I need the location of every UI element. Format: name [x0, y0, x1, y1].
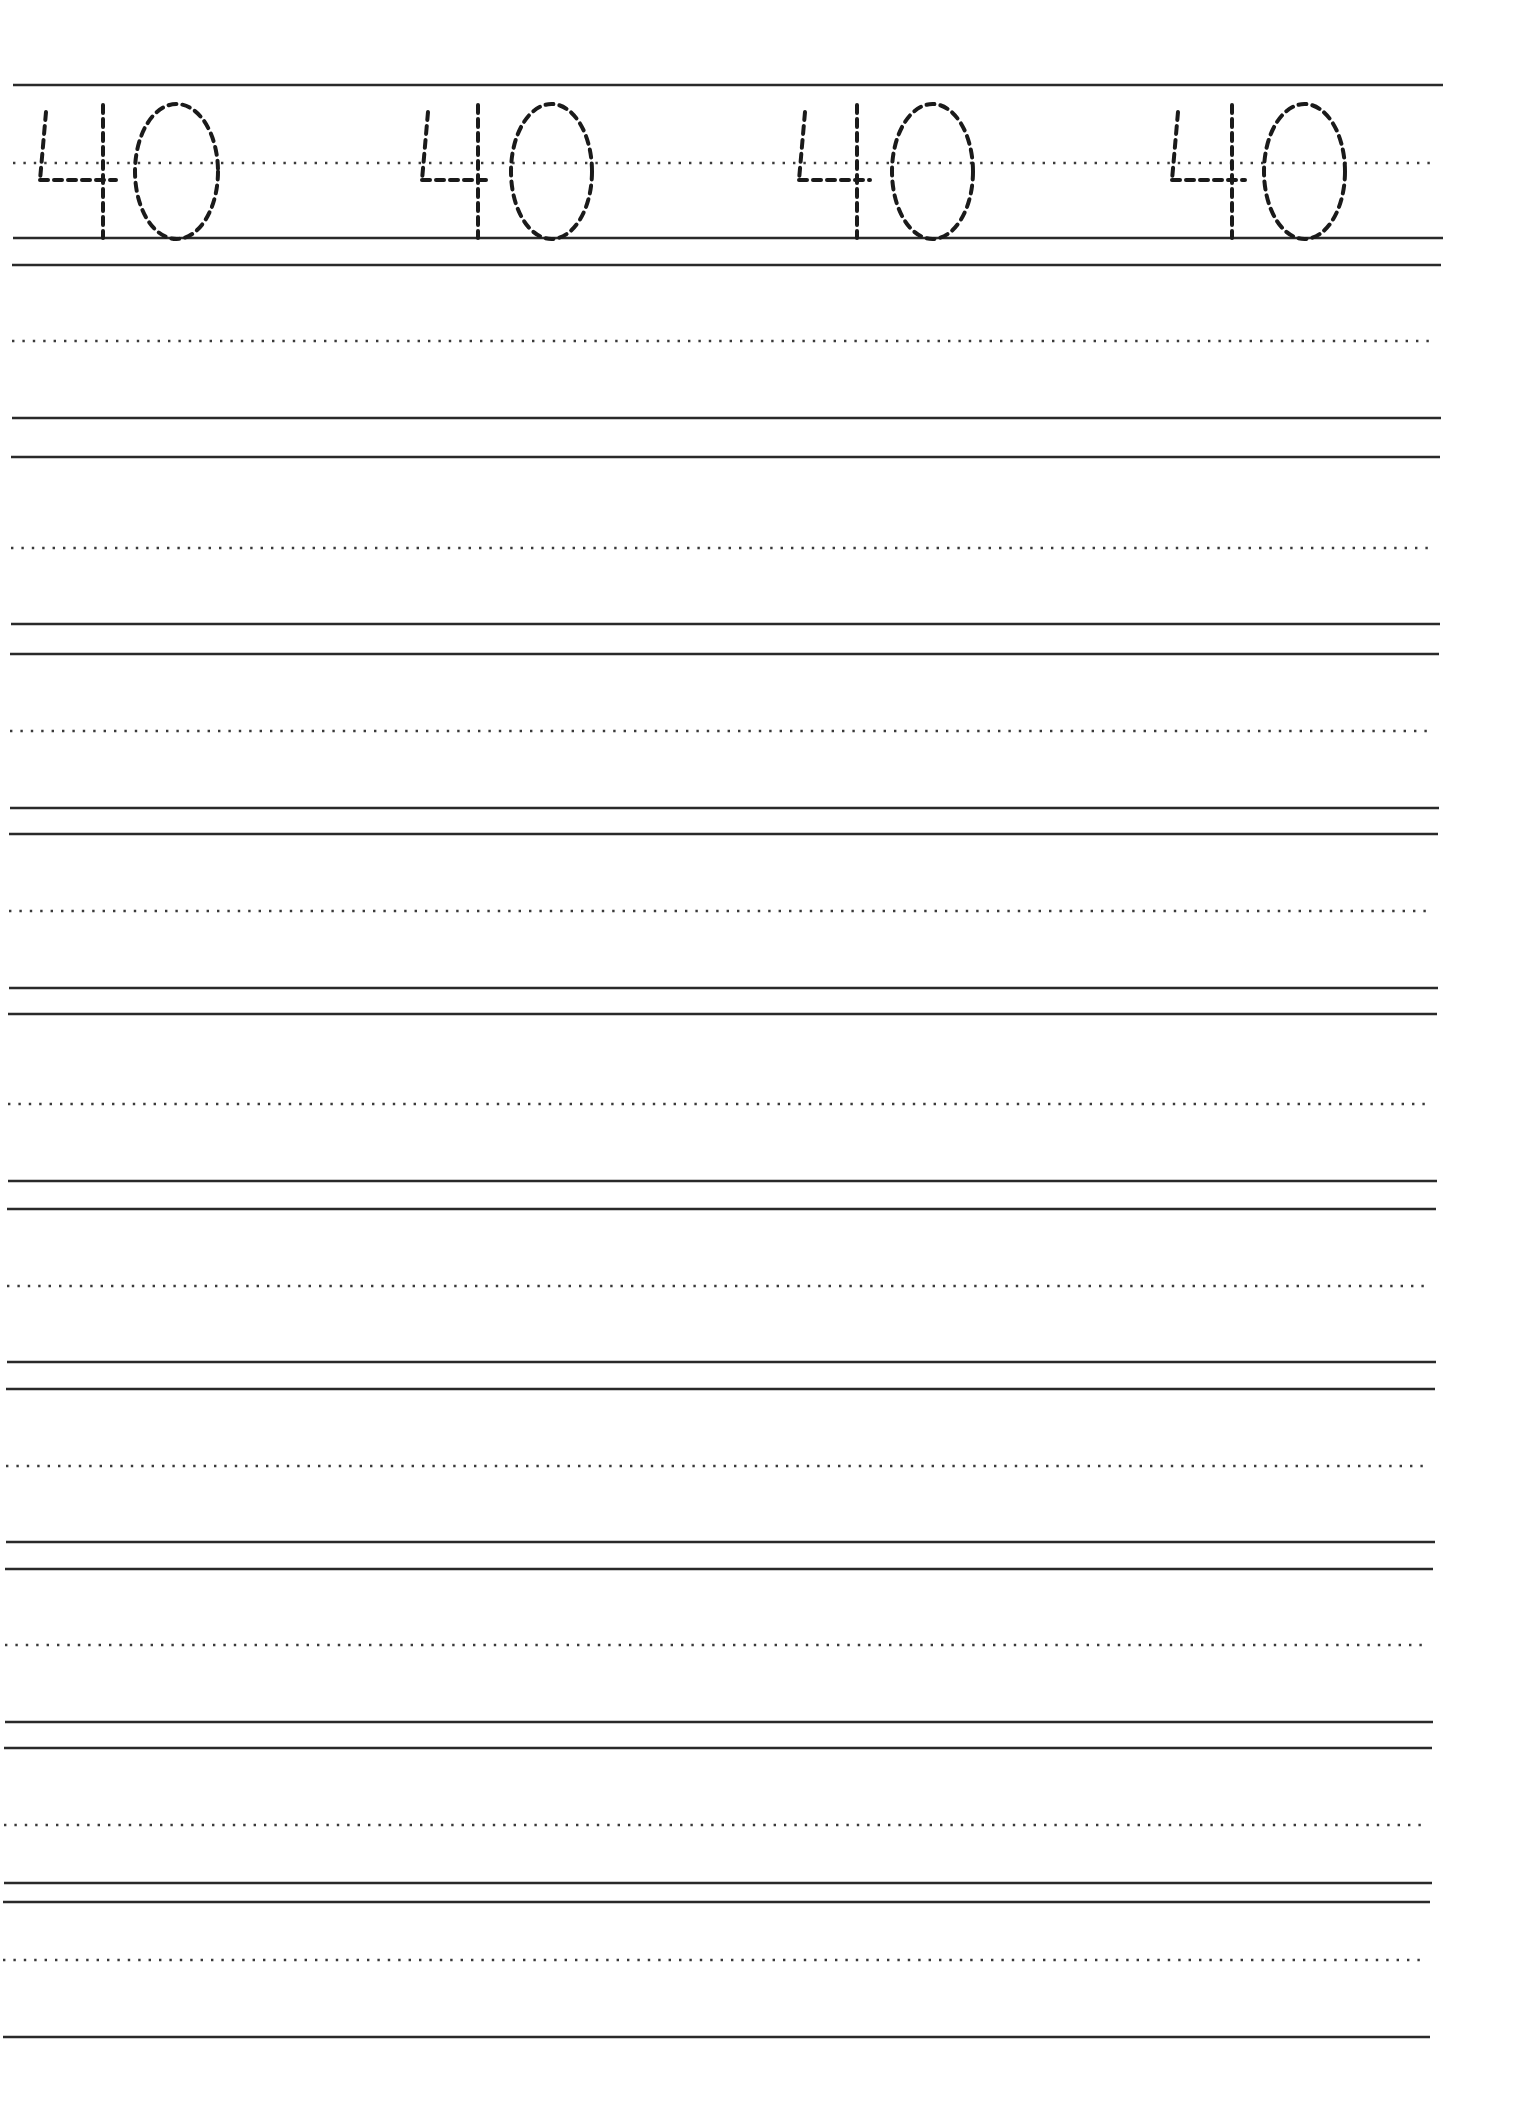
four-short-stroke — [1172, 112, 1178, 180]
traced-digit-0 — [1264, 104, 1345, 239]
writing-row[interactable] — [7, 1209, 1436, 1362]
writing-row[interactable] — [9, 834, 1438, 988]
traced-digit-4 — [40, 105, 116, 238]
handwriting-worksheet: 40 — [0, 0, 1515, 2107]
traced-number-40 — [1172, 104, 1345, 239]
traced-digit-4 — [1172, 105, 1245, 238]
traced-digit-0 — [511, 104, 592, 239]
four-short-stroke — [40, 112, 46, 180]
writing-row[interactable] — [13, 85, 1443, 238]
handwriting-lines — [0, 0, 1515, 2107]
writing-row[interactable] — [12, 265, 1441, 418]
writing-row[interactable] — [10, 654, 1439, 808]
traced-number-40 — [422, 104, 592, 239]
traced-digit-0 — [892, 104, 973, 239]
writing-row[interactable] — [4, 1748, 1432, 1883]
four-short-stroke — [799, 112, 805, 180]
writing-row[interactable] — [5, 1569, 1433, 1722]
writing-row[interactable] — [6, 1389, 1435, 1542]
traced-number-40 — [40, 104, 218, 239]
four-short-stroke — [422, 112, 428, 180]
traced-digit-0 — [135, 104, 218, 239]
writing-row[interactable] — [8, 1014, 1437, 1181]
traced-digit-4 — [799, 105, 870, 238]
traced-number-40 — [799, 104, 973, 239]
traced-digit-4 — [422, 105, 490, 238]
writing-row[interactable] — [11, 457, 1440, 624]
writing-row[interactable] — [3, 1902, 1430, 2037]
